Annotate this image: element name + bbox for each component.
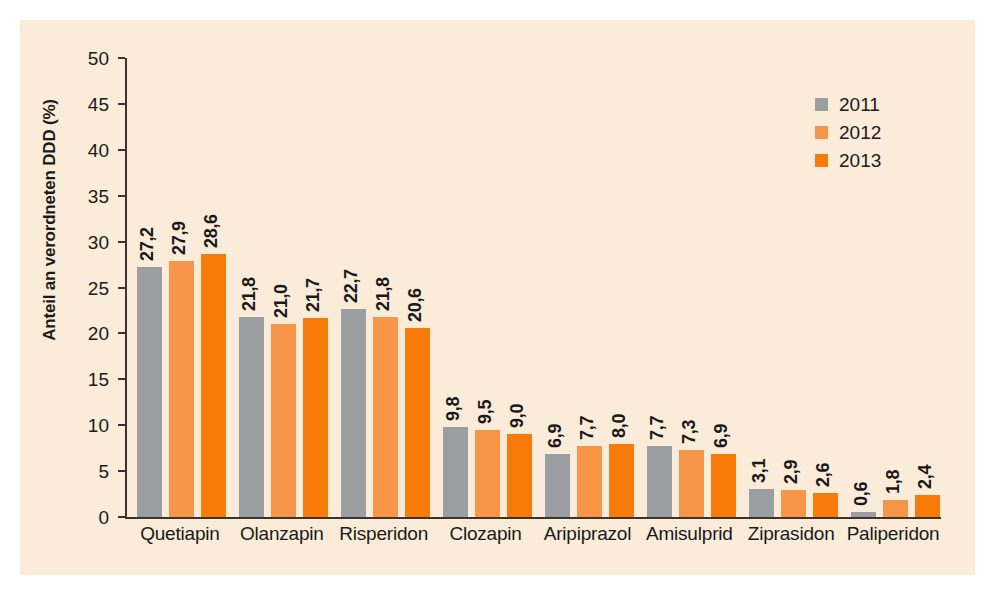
chart-panel: Anteil an verordneten DDD (%) 5045403530… bbox=[20, 20, 975, 575]
chart-legend: 201120122013 bbox=[815, 90, 945, 174]
bar-value-label: 21,8 bbox=[239, 251, 260, 311]
legend-label: 2012 bbox=[839, 123, 881, 142]
legend-item: 2011 bbox=[815, 90, 945, 118]
bar-value-label: 7,7 bbox=[647, 380, 668, 440]
y-tick bbox=[118, 103, 125, 105]
bar bbox=[507, 434, 532, 517]
y-tick-label: 40 bbox=[63, 140, 109, 159]
legend-label: 2013 bbox=[839, 151, 881, 170]
bar-group: 22,721,820,6 bbox=[341, 58, 430, 517]
bar bbox=[405, 328, 430, 517]
bar-value-label: 21,7 bbox=[303, 252, 324, 312]
bar-value-label: 28,6 bbox=[201, 188, 222, 248]
y-tick-label: 0 bbox=[63, 508, 109, 527]
bar-group: 7,77,36,9 bbox=[647, 58, 736, 517]
y-tick-label: 50 bbox=[63, 49, 109, 68]
legend-swatch-icon bbox=[815, 154, 828, 167]
y-tick-label: 20 bbox=[63, 324, 109, 343]
y-tick bbox=[118, 470, 125, 472]
bar-group: 21,821,021,7 bbox=[239, 58, 328, 517]
bar bbox=[239, 317, 264, 517]
bar-value-label: 0,6 bbox=[851, 446, 872, 506]
bar-value-label: 6,9 bbox=[545, 388, 566, 448]
bar bbox=[545, 454, 570, 517]
bar-value-label: 20,6 bbox=[405, 262, 426, 322]
bar bbox=[475, 430, 500, 517]
legend-swatch-icon bbox=[815, 126, 828, 139]
bar bbox=[679, 450, 704, 517]
y-tick-label: 5 bbox=[63, 462, 109, 481]
bar bbox=[303, 318, 328, 517]
legend-item: 2013 bbox=[815, 146, 945, 174]
bar bbox=[271, 324, 296, 517]
bar bbox=[577, 446, 602, 517]
x-axis-category-labels: QuetiapinOlanzapinRisperidonClozapinArip… bbox=[125, 523, 941, 553]
bar bbox=[749, 489, 774, 517]
bar bbox=[443, 427, 468, 517]
bar-group: 9,89,59,0 bbox=[443, 58, 532, 517]
chart-figure: Anteil an verordneten DDD (%) 5045403530… bbox=[0, 0, 998, 595]
bar bbox=[647, 446, 672, 517]
y-tick bbox=[118, 149, 125, 151]
bar-value-label: 9,5 bbox=[475, 364, 496, 424]
y-axis-title: Anteil an verordneten DDD (%) bbox=[40, 40, 60, 400]
bar bbox=[341, 309, 366, 517]
legend-swatch-icon bbox=[815, 98, 828, 111]
bar-value-label: 21,0 bbox=[271, 258, 292, 318]
bar bbox=[813, 493, 838, 517]
bar-value-label: 22,7 bbox=[341, 243, 362, 303]
y-tick bbox=[118, 516, 125, 518]
bar-value-label: 2,9 bbox=[781, 424, 802, 484]
y-tick-label: 35 bbox=[63, 186, 109, 205]
y-tick-label: 25 bbox=[63, 278, 109, 297]
y-tick bbox=[118, 195, 125, 197]
bar-value-label: 2,6 bbox=[813, 427, 834, 487]
legend-item: 2012 bbox=[815, 118, 945, 146]
y-tick bbox=[118, 287, 125, 289]
legend-label: 2011 bbox=[839, 95, 880, 114]
bar bbox=[137, 267, 162, 517]
bar-value-label: 27,2 bbox=[137, 201, 158, 261]
y-tick-label: 30 bbox=[63, 232, 109, 251]
bar bbox=[883, 500, 908, 517]
bar bbox=[915, 495, 940, 517]
bar-value-label: 27,9 bbox=[169, 195, 190, 255]
bar bbox=[609, 444, 634, 517]
y-tick bbox=[118, 424, 125, 426]
x-category-label: Paliperidon bbox=[823, 523, 963, 545]
bar-group: 6,97,78,0 bbox=[545, 58, 634, 517]
bar bbox=[169, 261, 194, 517]
bar-value-label: 7,7 bbox=[577, 380, 598, 440]
bar-value-label: 1,8 bbox=[883, 434, 904, 494]
bar-group: 27,227,928,6 bbox=[137, 58, 226, 517]
y-tick bbox=[118, 57, 125, 59]
bar-value-label: 6,9 bbox=[711, 388, 732, 448]
bar-value-label: 9,0 bbox=[507, 368, 528, 428]
y-tick bbox=[118, 378, 125, 380]
y-tick-label: 10 bbox=[63, 416, 109, 435]
bar bbox=[201, 254, 226, 517]
x-axis-line bbox=[125, 517, 941, 519]
bar bbox=[851, 512, 876, 518]
bar-value-label: 3,1 bbox=[749, 423, 770, 483]
y-tick bbox=[118, 332, 125, 334]
bar-value-label: 9,8 bbox=[443, 361, 464, 421]
y-tick bbox=[118, 241, 125, 243]
bar-value-label: 7,3 bbox=[679, 384, 700, 444]
y-tick-label: 15 bbox=[63, 370, 109, 389]
bar bbox=[373, 317, 398, 517]
bar-value-label: 2,4 bbox=[915, 429, 936, 489]
bar bbox=[711, 454, 736, 517]
bar-value-label: 21,8 bbox=[373, 251, 394, 311]
bar bbox=[781, 490, 806, 517]
bar-value-label: 8,0 bbox=[609, 378, 630, 438]
y-tick-label: 45 bbox=[63, 94, 109, 113]
